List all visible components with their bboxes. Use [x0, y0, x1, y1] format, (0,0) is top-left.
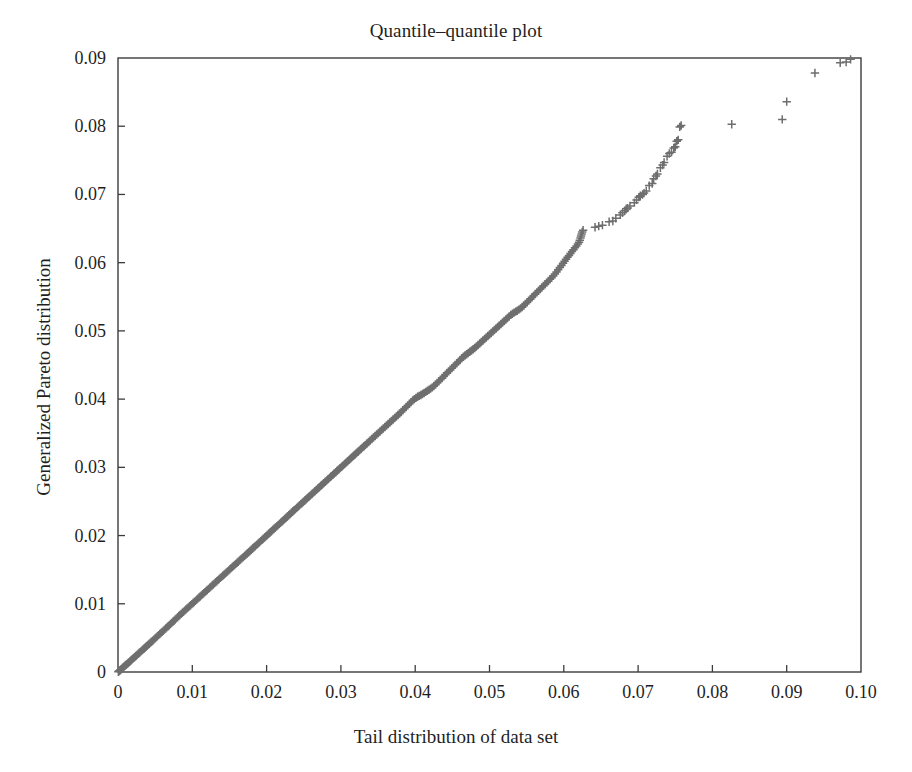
x-tick-label: 0.07 — [622, 682, 654, 703]
plot-frame — [118, 58, 861, 672]
x-tick-label: 0 — [114, 682, 123, 703]
x-tick-label: 0.04 — [399, 682, 431, 703]
y-axis-label: Generalized Pareto distribution — [33, 67, 55, 687]
x-tick-label: 0.03 — [325, 682, 357, 703]
x-tick-label: 0.08 — [697, 682, 729, 703]
x-axis-label: Tail distribution of data set — [0, 726, 912, 748]
data-points — [114, 55, 855, 676]
x-tick-label: 0.06 — [548, 682, 580, 703]
tick-marks — [118, 126, 787, 672]
x-tick-label: 0.01 — [177, 682, 209, 703]
y-tick-label: 0.09 — [0, 48, 106, 69]
x-tick-label: 0.09 — [771, 682, 803, 703]
axes-frame — [118, 58, 861, 672]
plot-canvas — [0, 0, 912, 772]
x-tick-label: 0.10 — [845, 682, 877, 703]
qq-plot-figure: Quantile–quantile plot 00.010.020.030.04… — [0, 0, 912, 772]
x-tick-label: 0.02 — [251, 682, 283, 703]
x-tick-label: 0.05 — [474, 682, 506, 703]
scatter-marker-set — [114, 55, 855, 676]
